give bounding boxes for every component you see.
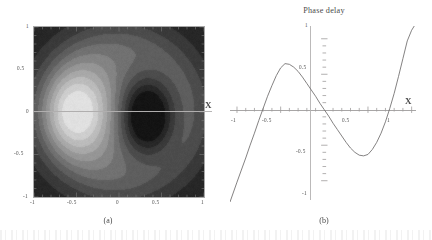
panel-a-xtick-0: 0 bbox=[116, 199, 119, 205]
panel-a-caption: (a) bbox=[0, 216, 216, 225]
panel-a-x-axis-label: X bbox=[205, 100, 212, 110]
phase-delay-curve-svg bbox=[230, 24, 420, 204]
panel-b-ytick-neg1: -1 bbox=[302, 190, 307, 196]
panel-b-plot-area bbox=[230, 24, 420, 204]
panel-b-ytick-neg0p5: -0.5 bbox=[296, 148, 306, 154]
density-zero-line-extension bbox=[203, 111, 212, 112]
panel-b-xtick-neg0p5: -0.5 bbox=[262, 117, 272, 123]
panel-b-ytick-1: 1 bbox=[305, 22, 308, 28]
phase-delay-curve-path bbox=[230, 26, 414, 202]
panel-a-ytick-0: 0 bbox=[26, 108, 29, 114]
panel-a-ytick-1: 1 bbox=[26, 23, 29, 29]
panel-b-xtick-0p5: 0.5 bbox=[342, 117, 350, 123]
panel-a-xtick-0p5: 0.5 bbox=[152, 199, 160, 205]
panel-b-x-axis-label: X bbox=[405, 96, 412, 106]
panel-a-xtick-neg0p5: -0.5 bbox=[67, 199, 77, 205]
panel-a-density-plot: 1 0.5 0 -0.5 -1 -1 -0.5 0 0.5 1 X (a) bbox=[0, 0, 216, 240]
panel-a-xtick-1: 1 bbox=[201, 199, 204, 205]
density-heatmap-canvas bbox=[34, 27, 204, 197]
figure-container: 1 0.5 0 -0.5 -1 -1 -0.5 0 0.5 1 X (a) Ph… bbox=[0, 0, 432, 240]
scan-artifact-strip bbox=[0, 230, 432, 240]
density-zero-line bbox=[33, 111, 205, 112]
panel-b-xtick-1: 1 bbox=[387, 117, 390, 123]
panel-b-xtick-neg1: -1 bbox=[231, 117, 236, 123]
panel-a-ytick-0p5: 0.5 bbox=[17, 65, 25, 71]
panel-b-line-plot: Phase delay 1 0.5 -0.5 -1 -1 -0.5 0.5 1 … bbox=[216, 0, 432, 240]
density-plot-frame bbox=[33, 26, 205, 198]
panel-a-ytick-neg0p5: -0.5 bbox=[14, 150, 24, 156]
panel-b-title: Phase delay bbox=[216, 6, 432, 15]
panel-a-xtick-neg1: -1 bbox=[30, 199, 35, 205]
panel-a-ytick-neg1: -1 bbox=[23, 193, 28, 199]
panel-b-ytick-0p5: 0.5 bbox=[299, 64, 307, 70]
panel-b-caption: (b) bbox=[216, 216, 432, 225]
